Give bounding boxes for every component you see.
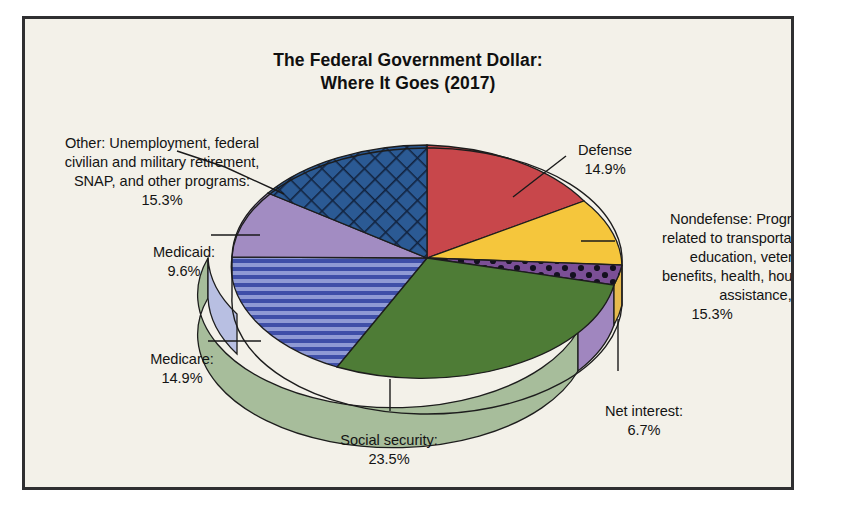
label-net-interest-text: Net interest: bbox=[605, 403, 683, 419]
label-other-pct: 15.3% bbox=[31, 191, 293, 210]
label-social-security-text: Social security: bbox=[340, 432, 437, 448]
chart-inner: The Federal Government Dollar: Where It … bbox=[25, 19, 791, 487]
label-medicaid-pct: 9.6% bbox=[109, 262, 259, 281]
label-defense-text: Defense bbox=[578, 142, 632, 158]
label-medicare-pct: 14.9% bbox=[107, 369, 257, 388]
label-defense: Defense 14.9% bbox=[530, 122, 680, 198]
label-social-security: Social security: 23.5% bbox=[281, 412, 497, 487]
label-medicaid-text: Medicaid: bbox=[153, 244, 215, 260]
label-medicaid: Medicaid: 9.6% bbox=[109, 224, 259, 300]
label-nondefense: Nondefense: Programs related to transpor… bbox=[605, 191, 791, 343]
label-net-interest: Net interest: 6.7% bbox=[564, 383, 724, 459]
label-other-text: Other: Unemployment, federal civilian an… bbox=[65, 135, 260, 189]
label-nondefense-text: Nondefense: Programs related to transpor… bbox=[662, 211, 791, 303]
label-net-interest-pct: 6.7% bbox=[564, 421, 724, 440]
label-defense-pct: 14.9% bbox=[530, 160, 680, 179]
label-social-security-pct: 23.5% bbox=[281, 450, 497, 469]
label-other: Other: Unemployment, federal civilian an… bbox=[31, 115, 293, 229]
chart-figure: The Federal Government Dollar: Where It … bbox=[22, 16, 794, 490]
label-medicare-text: Medicare: bbox=[150, 351, 214, 367]
label-nondefense-pct: 15.3% bbox=[605, 305, 791, 324]
label-medicare: Medicare: 14.9% bbox=[107, 331, 257, 407]
